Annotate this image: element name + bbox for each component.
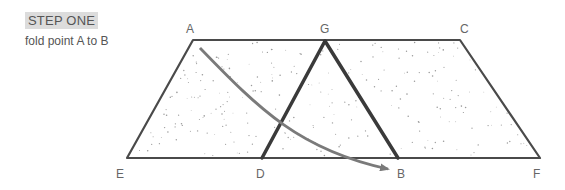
stipple-dot	[483, 92, 484, 93]
stipple-dot	[465, 107, 467, 109]
stipple-dot	[475, 69, 476, 70]
stipple-dot	[427, 52, 428, 53]
stipple-dot	[211, 113, 212, 114]
stipple-dot	[207, 132, 208, 133]
stipple-dot	[181, 123, 183, 125]
stipple-dot	[456, 80, 457, 81]
stipple-dot	[324, 155, 326, 157]
stipple-dot	[199, 95, 200, 96]
stipple-dot	[288, 137, 289, 138]
stipple-dot	[433, 93, 434, 94]
stipple-dot	[167, 131, 169, 133]
stipple-dot	[224, 119, 225, 120]
stipple-dot	[246, 112, 247, 113]
stipple-dot	[477, 144, 478, 145]
stipple-dot	[439, 47, 440, 48]
stipple-dot	[331, 102, 332, 103]
stipple-dot	[227, 59, 228, 60]
stipple-dot	[200, 80, 201, 81]
stipple-dot	[271, 49, 273, 51]
stipple-dot	[227, 92, 228, 93]
stipple-dot	[311, 84, 312, 85]
stipple-dot	[192, 55, 193, 56]
stipple-dot	[188, 82, 189, 83]
stipple-dot	[432, 148, 434, 150]
stipple-dot	[251, 85, 253, 87]
stipple-dot	[247, 151, 248, 152]
stipple-dot	[335, 134, 336, 135]
stipple-dot	[159, 143, 160, 144]
stipple-dot	[252, 43, 253, 44]
stipple-dot	[260, 82, 261, 83]
stipple-dot	[233, 113, 234, 114]
stipple-dot	[225, 144, 226, 145]
stipple-dot	[183, 70, 184, 71]
stipple-dot	[432, 75, 434, 77]
stipple-dot	[523, 143, 524, 144]
stipple-dot	[436, 107, 438, 109]
stipple-dot	[202, 74, 204, 76]
stipple-dot	[256, 42, 258, 44]
stipple-dot	[412, 55, 413, 56]
stipple-dot	[433, 55, 434, 56]
stipple-dot	[255, 136, 256, 137]
stipple-dot	[194, 97, 195, 98]
stipple-dot	[222, 126, 223, 127]
stipple-dot	[443, 141, 445, 143]
stipple-dot	[247, 122, 248, 123]
stipple-dot	[275, 109, 276, 110]
stipple-dot	[329, 106, 330, 107]
stipple-dot	[203, 115, 205, 117]
stipple-dot	[458, 95, 459, 96]
stipple-dot	[382, 51, 383, 52]
stipple-dot	[449, 121, 450, 122]
stipple-dot	[443, 49, 445, 51]
stipple-dot	[310, 104, 311, 105]
stipple-dot	[166, 114, 168, 116]
stipple-dot	[196, 61, 197, 62]
stipple-dot	[285, 50, 286, 51]
stipple-dot	[414, 81, 416, 83]
stipple-dot	[471, 128, 472, 129]
point-label-c: C	[460, 22, 469, 36]
stipple-dot	[294, 66, 295, 67]
stipple-dot	[147, 150, 149, 152]
stipple-dot	[511, 124, 512, 125]
point-label-f: F	[533, 167, 540, 181]
stipple-dot	[267, 52, 268, 53]
stipple-dot	[360, 61, 361, 62]
stipple-dot	[398, 58, 399, 59]
stipple-dot	[440, 108, 441, 109]
stipple-dot	[197, 130, 198, 131]
stipple-dot	[176, 139, 177, 140]
stipple-dot	[457, 48, 458, 49]
stipple-dot	[443, 98, 444, 99]
stipple-dot	[443, 67, 444, 68]
stipple-dot	[407, 71, 408, 72]
stipple-dot	[332, 89, 333, 90]
stipple-dot	[216, 57, 217, 58]
stipple-dot	[271, 74, 272, 75]
stipple-dot	[419, 72, 420, 73]
point-label-a: A	[186, 22, 194, 36]
stipple-dot	[313, 125, 314, 126]
stipple-dot	[255, 90, 257, 92]
stipple-dot	[396, 86, 397, 87]
stipple-dot	[506, 112, 507, 113]
stipple-dot	[366, 79, 367, 80]
stipple-dot	[196, 63, 197, 64]
stipple-dot	[230, 132, 231, 133]
stipple-dot	[313, 127, 314, 128]
stipple-dot	[323, 117, 324, 118]
stipple-dot	[427, 140, 428, 141]
stipple-dot	[221, 66, 222, 67]
stipple-dot	[381, 47, 382, 48]
stipple-dot	[406, 93, 408, 95]
stipple-dot	[282, 148, 283, 149]
stipple-dot	[221, 113, 223, 115]
stipple-dot	[487, 125, 488, 126]
stipple-dot	[163, 113, 164, 114]
stipple-dot	[520, 143, 521, 144]
stipple-dot	[350, 69, 351, 70]
stipple-dot	[225, 125, 226, 126]
